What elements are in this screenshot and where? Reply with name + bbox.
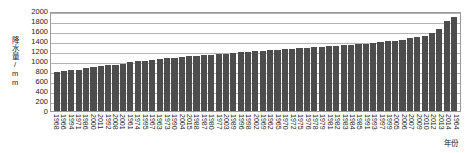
bar: [193, 56, 199, 112]
bar: [252, 51, 258, 111]
bar: [296, 48, 302, 111]
x-tick: 2005: [393, 113, 400, 139]
bar: [238, 52, 244, 111]
x-tick: 1986: [82, 113, 89, 139]
bar: [422, 36, 428, 112]
x-tick: 2000: [89, 113, 96, 139]
x-tick-label: 2006: [400, 114, 407, 130]
x-tick-label: 1991: [363, 114, 370, 130]
bar: [399, 40, 405, 112]
x-tick-label: 1989: [230, 114, 237, 130]
y-tick-label: 800: [35, 68, 48, 76]
plot-area: [50, 12, 461, 112]
bar: [68, 70, 74, 111]
x-tick-label: 1977: [215, 114, 222, 130]
x-tick: 2002: [252, 113, 259, 139]
bar: [363, 44, 369, 112]
bar: [120, 64, 126, 111]
bar: [201, 55, 207, 111]
x-tick-label: 2012: [430, 114, 437, 130]
x-tick-label: 2010: [423, 114, 430, 130]
x-tick: 2007: [408, 113, 415, 139]
bar: [289, 49, 295, 111]
bar: [274, 50, 280, 111]
bar: [385, 41, 391, 111]
bar: [179, 57, 185, 111]
x-tick: 1996: [237, 113, 244, 139]
x-tick-label: 1975: [297, 114, 304, 130]
x-tick-label: 1962: [267, 114, 274, 130]
x-tick-label: 2011: [97, 114, 104, 129]
bar: [341, 45, 347, 111]
x-tick-label: 1995: [141, 114, 148, 130]
x-tick-label: 1983: [341, 114, 348, 130]
bar: [282, 49, 288, 111]
x-tick: 1963: [156, 113, 163, 139]
x-tick-label: 2004: [178, 114, 185, 130]
y-tick-label: 2000: [31, 8, 48, 16]
bar: [414, 37, 420, 111]
x-tick: 1981: [326, 113, 333, 139]
x-tick: 1974: [133, 113, 140, 139]
x-axis-title: 年份: [444, 137, 458, 148]
bar: [171, 58, 177, 111]
x-tick: 1995: [141, 113, 148, 139]
y-tick-label: 1600: [31, 28, 48, 36]
x-tick-label: 1980: [208, 114, 215, 130]
x-tick: 1991: [363, 113, 370, 139]
bar: [370, 43, 376, 111]
x-tick: 1989: [230, 113, 237, 139]
bar: [333, 46, 339, 112]
x-tick-label: 1964: [452, 114, 459, 130]
x-tick-label: 2000: [89, 114, 96, 130]
x-tick: 1979: [319, 113, 326, 139]
x-tick: 1964: [452, 113, 459, 139]
y-tick-label: 600: [35, 78, 48, 86]
x-tick: 1990: [171, 113, 178, 139]
y-axis-tick-labels: 0200400600800100012001400160018002000: [22, 8, 48, 114]
bar: [436, 29, 442, 112]
x-tick-label: 1994: [67, 114, 74, 130]
y-tick-label: 1000: [31, 58, 48, 66]
bar: [392, 41, 398, 112]
x-tick-label: 2005: [393, 114, 400, 130]
x-tick-label: 1966: [60, 114, 67, 130]
bar: [230, 53, 236, 111]
x-tick-label: 2015: [186, 114, 193, 130]
x-tick: 1983: [341, 113, 348, 139]
x-tick-label: 1976: [304, 114, 311, 130]
bar: [444, 21, 450, 111]
bar: [407, 38, 413, 111]
x-tick-label: 1999: [385, 114, 392, 130]
x-tick: 1998: [245, 113, 252, 139]
x-axis-tick-labels: 1968196619941971198620002011199220082001…: [50, 113, 461, 139]
x-tick: 1993: [370, 113, 377, 139]
bar: [311, 47, 317, 111]
y-tick-label: 200: [35, 98, 48, 106]
x-tick: 2009: [415, 113, 422, 139]
x-tick: 1982: [333, 113, 340, 139]
bar: [429, 33, 435, 111]
bar: [142, 61, 148, 112]
x-tick: 1994: [67, 113, 74, 139]
x-tick: 1970: [282, 113, 289, 139]
bar: [61, 71, 67, 111]
x-tick: 1972: [289, 113, 296, 139]
x-tick: 1965: [274, 113, 281, 139]
x-tick-label: 1982: [334, 114, 341, 130]
x-tick: 1968: [52, 113, 59, 139]
x-tick-label: 1986: [82, 114, 89, 130]
x-tick-label: 1987: [200, 114, 207, 130]
x-tick: 2001: [119, 113, 126, 139]
x-tick: 1988: [193, 113, 200, 139]
bar: [83, 68, 89, 111]
x-tick: 1992: [104, 113, 111, 139]
x-tick-label: 1988: [193, 114, 200, 130]
bar: [208, 55, 214, 112]
x-tick-label: 1981: [326, 114, 333, 130]
x-tick: 1978: [311, 113, 318, 139]
bar: [164, 58, 170, 111]
bar: [223, 54, 229, 112]
x-tick-label: 1978: [311, 114, 318, 130]
precipitation-bar-chart: 降水量/mm 020040060080010001200140016001800…: [0, 0, 471, 153]
